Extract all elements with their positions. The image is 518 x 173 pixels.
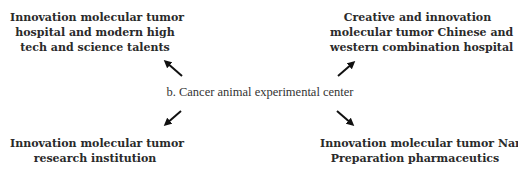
node-line: Innovation molecular tumor (10, 136, 180, 151)
arrow-up-right-icon (338, 63, 353, 76)
node-top-right: Creative and innovation molecular tumor … (330, 10, 505, 55)
arrow-down-left-icon (166, 111, 181, 124)
node-top-left: Innovation molecular tumor hospital and … (10, 10, 180, 55)
node-line: western combination hospital (330, 40, 505, 55)
node-line: molecular tumor Chinese and (330, 25, 505, 40)
node-line: Creative and innovation (330, 10, 505, 25)
node-line: research institution (10, 151, 180, 166)
arrow-down-right-icon (337, 111, 352, 124)
node-bottom-left: Innovation molecular tumor research inst… (10, 136, 180, 166)
node-line: Innovation molecular tumor Nami (320, 136, 510, 151)
center-node: b. Cancer animal experimental center (160, 85, 360, 100)
arrow-up-left-icon (166, 62, 182, 76)
node-line: hospital and modern high (10, 25, 180, 40)
node-bottom-right: Innovation molecular tumor Nami Preparat… (320, 136, 510, 166)
node-line: tech and science talents (10, 40, 180, 55)
node-line: Innovation molecular tumor (10, 10, 180, 25)
node-line: Preparation pharmaceutics (320, 151, 510, 166)
